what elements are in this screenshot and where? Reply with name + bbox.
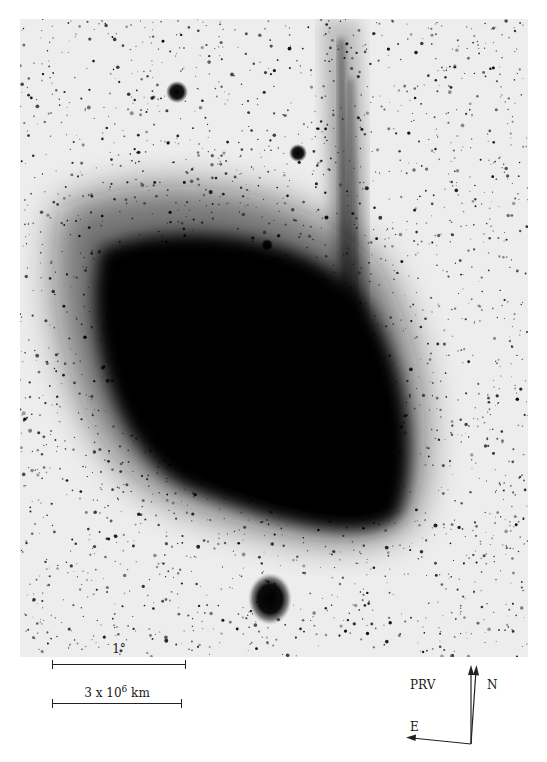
scale-label-km: 3 x 106 km [52,684,182,700]
scale-line [52,664,186,665]
prv-arrowhead-icon [468,665,474,675]
scale-label-exponent: 6 [122,684,128,694]
bright-star-3 [248,573,292,625]
scale-tick-right [181,699,182,708]
compass-arrows [400,660,510,760]
compass-label-east: E [410,720,419,734]
scale-label-degree: 1° [52,642,186,656]
scale-tick-left [52,660,53,669]
comet-plate-image [20,19,528,657]
scale-bar-angular: 1° [52,642,186,672]
east-arrowhead-icon [406,735,416,742]
compass: PRV N E [400,660,510,760]
north-arrowhead-icon [473,665,479,676]
compass-label-north: N [487,678,498,692]
bright-star-1 [166,81,188,103]
bright-star-2 [289,144,307,162]
scale-label-base: 3 x 10 [84,686,121,700]
compass-label-prv: PRV [410,678,435,692]
bright-star-4 [261,239,273,251]
scale-tick-left [52,699,53,708]
scale-tick-right [185,660,186,669]
scale-line [52,703,182,704]
comet-photograph [20,19,528,657]
scale-bar-distance: 3 x 106 km [52,678,182,718]
scale-label-unit: km [131,686,150,700]
